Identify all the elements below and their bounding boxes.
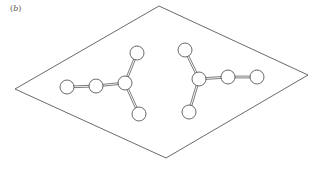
central-atom	[118, 76, 132, 90]
molecules-group	[60, 43, 264, 121]
atom	[130, 46, 144, 60]
central-atom	[192, 72, 206, 86]
plane-rhombus	[15, 6, 308, 158]
atom	[178, 43, 192, 57]
atom	[89, 79, 103, 93]
molecule-plane-diagram	[0, 0, 316, 170]
atom	[182, 105, 196, 119]
atom	[250, 70, 264, 84]
atom	[221, 70, 235, 84]
right-molecule	[178, 43, 264, 119]
atom	[60, 80, 74, 94]
atom	[132, 107, 146, 121]
left-molecule	[60, 46, 146, 121]
